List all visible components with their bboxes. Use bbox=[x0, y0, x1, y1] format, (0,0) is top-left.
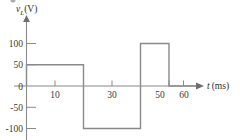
x-tick-label-30: 30 bbox=[107, 90, 117, 100]
x-axis-title: t(ms) bbox=[207, 81, 229, 92]
x-tick-marks bbox=[55, 81, 184, 87]
waveform-figure: 100 50 0 -50 -100 10 30 50 60 vL(V) t(ms… bbox=[0, 0, 240, 140]
y-tick-label-0: 0 bbox=[18, 82, 23, 92]
scan-artifact-speck bbox=[10, 0, 15, 2]
x-tick-labels: 10 30 50 60 bbox=[50, 90, 189, 100]
x-tick-label-60: 60 bbox=[179, 90, 189, 100]
x-tick-label-50: 50 bbox=[155, 90, 165, 100]
axes-group bbox=[14, 15, 204, 140]
x-axis-title-var: t bbox=[207, 81, 210, 91]
axis-titles: vL(V) t(ms) bbox=[16, 4, 229, 92]
x-axis-arrow-icon bbox=[196, 83, 204, 90]
x-axis-title-unit: (ms) bbox=[212, 81, 229, 92]
y-axis-title: vL(V) bbox=[16, 4, 37, 17]
y-tick-label-minus50: -50 bbox=[10, 103, 23, 113]
x-tick-label-10: 10 bbox=[50, 90, 60, 100]
y-tick-label-100: 100 bbox=[9, 39, 24, 49]
y-tick-label-50: 50 bbox=[14, 60, 24, 70]
y-tick-label-minus100: -100 bbox=[6, 124, 24, 134]
y-axis-title-unit: (V) bbox=[24, 4, 37, 15]
plot-canvas: 100 50 0 -50 -100 10 30 50 60 vL(V) t(ms… bbox=[0, 0, 240, 140]
